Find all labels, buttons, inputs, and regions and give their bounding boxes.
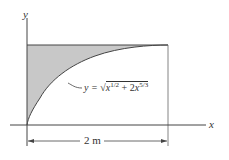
y-axis-label: y [23, 9, 28, 20]
equation-prefix: y = [84, 82, 100, 93]
diagram-canvas [0, 0, 229, 160]
dimension-label: 2 m [84, 135, 101, 146]
equation-leader [68, 83, 82, 88]
x-axis-label: x [209, 119, 214, 130]
arrowhead-left [28, 139, 34, 143]
arrowhead-right [161, 139, 167, 143]
curve-equation: y = √x1/2 + 2x5/3 [84, 82, 148, 93]
